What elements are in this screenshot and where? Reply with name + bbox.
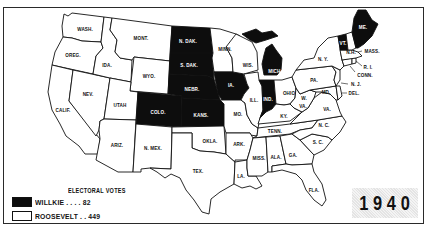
label-ky: KY. bbox=[280, 114, 287, 119]
label-nh: N.H. bbox=[346, 50, 356, 55]
label-calif: CALIF. bbox=[56, 108, 71, 113]
label-oreg: OREG. bbox=[65, 53, 80, 58]
label-mo: MO. bbox=[234, 112, 243, 117]
label-pa: PA. bbox=[310, 78, 318, 83]
label-va: VA. bbox=[323, 107, 331, 112]
legend-item-willkie: WILLKIE . . . . 82 bbox=[12, 197, 100, 207]
label-ark: ARK. bbox=[233, 142, 245, 147]
label-mich: MICH. bbox=[268, 69, 282, 74]
label-ida: IDA. bbox=[102, 63, 112, 68]
state-ny bbox=[296, 36, 344, 70]
label-wis: WIS. bbox=[243, 63, 253, 68]
label-vt: VT. bbox=[340, 41, 347, 46]
legend-swatch-white bbox=[12, 211, 32, 221]
label-wyo: WYO. bbox=[143, 74, 156, 79]
label-mont: MONT. bbox=[134, 36, 149, 41]
label-fla: FLA. bbox=[309, 188, 320, 193]
label-utah: UTAH bbox=[114, 103, 127, 108]
label-ri: R. I. bbox=[364, 65, 373, 70]
label-la: LA. bbox=[237, 174, 245, 179]
label-del: DEL. bbox=[349, 91, 360, 96]
label-ind: IND. bbox=[263, 97, 273, 102]
label-ariz: ARIZ. bbox=[111, 143, 124, 148]
label-tenn: TENN. bbox=[268, 129, 282, 134]
label-ia: IA. bbox=[228, 83, 234, 88]
legend-label-willkie: WILLKIE . . . . 82 bbox=[35, 198, 91, 207]
label-nc: N. C. bbox=[319, 123, 330, 128]
label-nj: N. J. bbox=[351, 82, 361, 87]
label-ga: GA. bbox=[289, 153, 297, 158]
legend-title: ELECTORAL VOTES bbox=[68, 187, 126, 194]
label-ny: N. Y. bbox=[318, 57, 328, 62]
label-conn: CONN. bbox=[357, 73, 372, 78]
label-nmex: N. MEX. bbox=[144, 146, 162, 151]
year-box: 1940 bbox=[352, 188, 418, 218]
state-fla bbox=[272, 164, 326, 206]
label-sdak: S. DAK. bbox=[180, 63, 198, 68]
label-minn: MINN. bbox=[218, 47, 232, 52]
label-kans: KANS. bbox=[194, 113, 209, 118]
label-ndak: N. DAK. bbox=[179, 39, 197, 44]
label-ala: ALA. bbox=[270, 155, 281, 160]
label-nebr: NEBR. bbox=[185, 87, 200, 92]
label-sc: S. C. bbox=[313, 140, 324, 145]
label-wva-va: VA. bbox=[299, 104, 307, 109]
label-miss: MISS. bbox=[252, 156, 265, 161]
label-md: MD. bbox=[322, 90, 331, 95]
label-wash: WASH. bbox=[77, 27, 93, 32]
label-ohio: OHIO bbox=[283, 91, 295, 96]
label-colo: COLO. bbox=[150, 110, 165, 115]
label-tex: TEX. bbox=[193, 169, 204, 174]
legend-swatch-black bbox=[12, 197, 32, 207]
label-wva-w: W. bbox=[301, 96, 307, 101]
label-me: ME. bbox=[359, 25, 367, 30]
year-label: 1940 bbox=[359, 188, 410, 218]
legend-label-roosevelt: ROOSEVELT . . 449 bbox=[35, 212, 100, 221]
label-nev: NEV. bbox=[83, 92, 94, 97]
legend-item-roosevelt: ROOSEVELT . . 449 bbox=[12, 211, 112, 221]
label-mass: MASS. bbox=[364, 49, 379, 54]
label-okla: OKLA. bbox=[203, 139, 218, 144]
label-ill: ILL. bbox=[250, 98, 259, 103]
